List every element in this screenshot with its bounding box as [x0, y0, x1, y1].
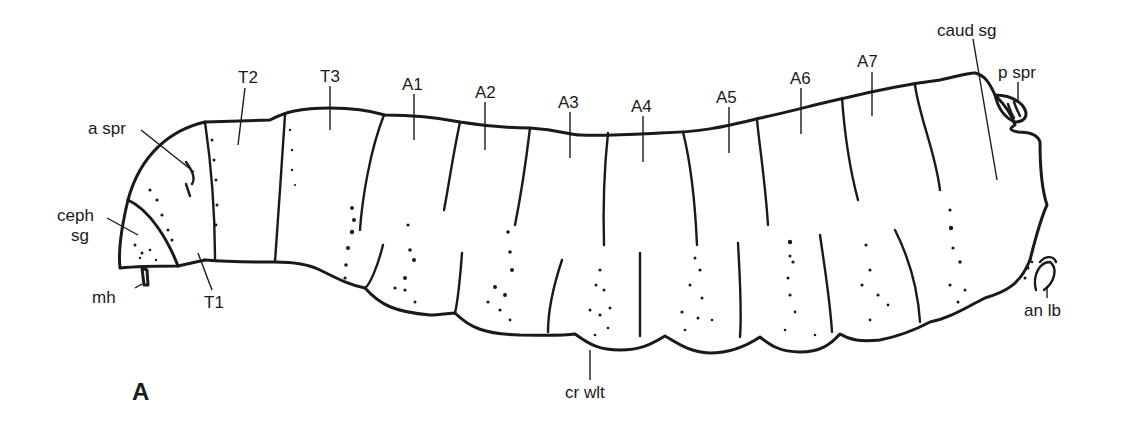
creeping-welt-stipple — [134, 129, 1034, 337]
labels: a spr ceph sg mh T1 T2 T3 A1 A2 A3 A4 A5… — [57, 21, 1061, 405]
label-A1: A1 — [402, 75, 423, 94]
label-cr-wlt: cr wlt — [565, 383, 605, 402]
larva-diagram: a spr ceph sg mh T1 T2 T3 A1 A2 A3 A4 A5… — [0, 0, 1130, 438]
label-T2: T2 — [238, 68, 258, 87]
label-A5: A5 — [716, 88, 737, 107]
leader-lines — [107, 39, 1047, 380]
label-ceph-sg-line2: sg — [71, 226, 89, 245]
mouth-hook-shape — [142, 268, 148, 285]
label-A7: A7 — [857, 52, 878, 71]
label-A4: A4 — [631, 97, 652, 116]
label-an-lb: an lb — [1024, 301, 1061, 320]
label-A2: A2 — [475, 83, 496, 102]
label-caud-sg: caud sg — [937, 21, 997, 40]
label-ceph-sg-line1: ceph — [57, 206, 94, 225]
anal-lobe-shape — [1035, 257, 1056, 290]
label-p-spr: p spr — [998, 63, 1036, 82]
panel-label: A — [132, 378, 149, 405]
label-a-spr: a spr — [88, 119, 126, 138]
label-mh: mh — [92, 288, 116, 307]
segment-boundaries — [205, 85, 940, 337]
label-A6: A6 — [790, 69, 811, 88]
label-A3: A3 — [558, 93, 579, 112]
label-T1: T1 — [204, 293, 224, 312]
label-T3: T3 — [320, 67, 340, 86]
body-outline — [119, 73, 1047, 353]
